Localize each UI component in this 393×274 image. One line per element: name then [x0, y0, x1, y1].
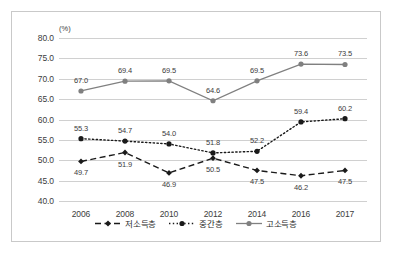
data-point-label: 54.7	[118, 126, 132, 135]
data-point-label: 64.6	[206, 85, 220, 94]
legend-item-중간층[interactable]: 중간층	[169, 217, 222, 229]
data-point-marker	[166, 78, 171, 83]
y-axis-tick-label: 50.0	[38, 155, 54, 165]
data-point-marker	[78, 136, 83, 141]
data-point-label: 47.5	[338, 177, 352, 186]
data-point-marker	[210, 155, 216, 161]
data-point-label: 55.3	[74, 123, 88, 132]
data-point-label: 67.0	[74, 75, 88, 84]
y-axis-tick-label: 55.0	[38, 135, 54, 145]
legend-label: 중간층	[199, 217, 222, 229]
data-point-marker	[210, 150, 215, 155]
data-point-label: 73.5	[338, 49, 352, 58]
data-point-label: 46.2	[294, 182, 308, 191]
data-point-label: 54.0	[162, 128, 176, 137]
data-point-marker	[210, 98, 215, 103]
data-point-marker	[254, 168, 260, 174]
legend-swatch-icon	[95, 219, 121, 228]
data-point-label: 51.8	[206, 137, 220, 146]
data-point-marker	[342, 116, 347, 121]
data-point-marker	[342, 168, 348, 174]
series-line-중간층	[81, 119, 345, 153]
chart-frame: (%) 80.075.070.065.060.055.050.045.040.0…	[11, 11, 381, 242]
data-point-marker	[166, 141, 171, 146]
legend-item-저소득층[interactable]: 저소득층	[95, 217, 156, 229]
chart-legend: 저소득층중간층고소득층	[12, 217, 380, 229]
data-point-label: 51.9	[118, 159, 132, 168]
data-point-marker	[254, 78, 259, 83]
data-point-marker	[122, 79, 127, 84]
y-axis-tick-label: 60.0	[38, 115, 54, 125]
y-axis-tick-label: 40.0	[38, 196, 54, 206]
data-point-label: 69.5	[250, 65, 264, 74]
data-point-marker	[78, 88, 83, 93]
data-point-label: 59.4	[294, 106, 308, 115]
data-point-marker	[298, 119, 303, 124]
data-point-marker	[298, 61, 303, 66]
y-axis-tick-label: 65.0	[38, 94, 54, 104]
legend-label: 저소득층	[125, 217, 156, 229]
data-point-label: 47.5	[250, 177, 264, 186]
data-point-marker	[254, 149, 259, 154]
data-point-label: 60.2	[338, 103, 352, 112]
data-point-marker	[298, 173, 304, 179]
data-point-label: 46.9	[162, 179, 176, 188]
data-point-label: 69.5	[162, 65, 176, 74]
data-point-marker	[122, 138, 127, 143]
legend-swatch-icon	[169, 219, 195, 228]
legend-item-고소득층[interactable]: 고소득층	[236, 217, 297, 229]
data-point-label: 49.7	[74, 168, 88, 177]
y-axis-tick-label: 80.0	[38, 33, 54, 43]
y-axis-unit-label: (%)	[59, 24, 71, 33]
plot-area: 80.075.070.065.060.055.050.045.040.0 200…	[59, 38, 367, 201]
data-point-label: 73.6	[294, 49, 308, 58]
y-axis-tick-label: 45.0	[38, 176, 54, 186]
gridline	[59, 201, 367, 202]
data-point-marker	[122, 150, 128, 156]
data-point-label: 69.4	[118, 66, 132, 75]
data-point-marker	[342, 62, 347, 67]
data-point-marker	[166, 170, 172, 176]
legend-label: 고소득층	[266, 217, 297, 229]
y-axis-tick-label: 75.0	[38, 53, 54, 63]
y-axis-tick-label: 70.0	[38, 74, 54, 84]
legend-swatch-icon	[236, 219, 262, 228]
data-point-marker	[78, 159, 84, 165]
data-point-label: 50.5	[206, 165, 220, 174]
series-lines	[59, 38, 367, 201]
data-point-label: 52.2	[250, 136, 264, 145]
